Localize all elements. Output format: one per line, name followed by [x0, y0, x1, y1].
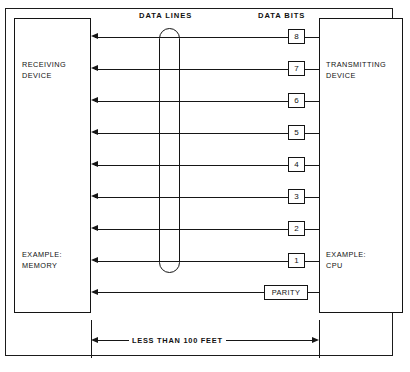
- bit-arrowhead: [91, 225, 98, 231]
- bit-signal-line-right: [305, 229, 320, 230]
- bit-arrowhead: [91, 65, 98, 71]
- bit-box-4: 4: [288, 157, 305, 172]
- bit-signal-line-right: [305, 197, 320, 198]
- bit-signal-line-left: [95, 101, 288, 102]
- dimension-extension-line-right: [319, 320, 320, 358]
- bit-box-2: 2: [288, 221, 305, 236]
- parity-signal-line-right: [308, 292, 320, 293]
- parity-signal-line-left: [95, 292, 265, 293]
- dimension-arrowhead-left: [91, 337, 98, 343]
- parity-arrowhead: [91, 289, 98, 295]
- bit-arrowhead: [91, 193, 98, 199]
- bit-signal-line-left: [95, 197, 288, 198]
- bit-signal-line-left: [95, 165, 288, 166]
- parity-box: PARITY: [264, 285, 308, 300]
- bit-signal-line-left: [95, 133, 288, 134]
- bit-signal-line-left: [95, 69, 288, 70]
- bit-box-7: 7: [288, 61, 305, 76]
- bit-arrowhead: [91, 97, 98, 103]
- bit-box-5: 5: [288, 125, 305, 140]
- bit-signal-line-right: [305, 37, 320, 38]
- transmitting-device-example-label: EXAMPLE: CPU: [326, 250, 366, 271]
- diagram-canvas: RECEIVING DEVICE EXAMPLE: MEMORY TRANSMI…: [0, 0, 410, 372]
- bit-signal-line-left: [95, 37, 288, 38]
- bit-arrowhead: [91, 257, 98, 263]
- transmitting-device-label: TRANSMITTING DEVICE: [326, 60, 386, 81]
- data-lines-cable-loop: [159, 28, 180, 273]
- bit-signal-line-right: [305, 133, 320, 134]
- receiving-device-example-label: EXAMPLE: MEMORY: [22, 250, 62, 271]
- dimension-label: LESS THAN 100 FEET: [129, 336, 226, 345]
- bit-box-3: 3: [288, 189, 305, 204]
- bit-arrowhead: [91, 33, 98, 39]
- bit-arrowhead: [91, 129, 98, 135]
- dimension-arrowhead-right: [312, 337, 319, 343]
- data-bits-heading: DATA BITS: [258, 11, 305, 20]
- data-lines-heading: DATA LINES: [139, 11, 192, 20]
- bit-box-1: 1: [288, 253, 305, 268]
- bit-signal-line-right: [305, 69, 320, 70]
- bit-signal-line-right: [305, 101, 320, 102]
- bit-box-8: 8: [288, 29, 305, 44]
- bit-signal-line-right: [305, 261, 320, 262]
- bit-signal-line-right: [305, 165, 320, 166]
- bit-arrowhead: [91, 161, 98, 167]
- bit-signal-line-left: [95, 229, 288, 230]
- receiving-device-label: RECEIVING DEVICE: [22, 60, 66, 81]
- bit-box-6: 6: [288, 93, 305, 108]
- bit-signal-line-left: [95, 261, 288, 262]
